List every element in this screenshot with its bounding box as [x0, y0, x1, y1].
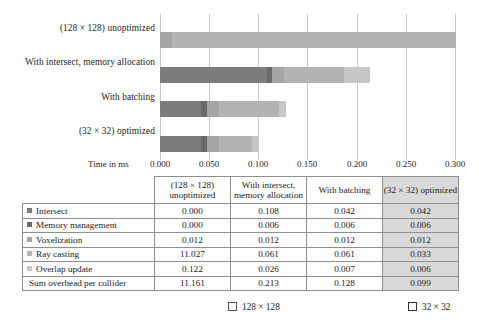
- bar-segment: [344, 67, 370, 83]
- table-cell: 11.027: [154, 247, 230, 262]
- row-header-5: Sum overhead per collider: [23, 276, 155, 291]
- row-header-1: Memory management: [23, 218, 155, 233]
- bar-series-3: [160, 136, 258, 152]
- series-color-swatch-icon: [27, 237, 32, 242]
- table-row: Overlap update0.1220.0260.0070.006: [23, 262, 459, 277]
- row-label: Ray casting: [36, 249, 79, 259]
- category-label-1: With intersect, memory allocation: [5, 57, 155, 68]
- legend-item-1: 32 × 32: [408, 302, 451, 312]
- legend-swatch-icon-0: [228, 302, 237, 311]
- row-header-3: Ray casting: [23, 247, 155, 262]
- table-cell: 0.012: [154, 233, 230, 248]
- table-cell: 0.033: [382, 247, 458, 262]
- bar-segment: [160, 67, 267, 83]
- x-tick-label-5: 0.250: [386, 159, 426, 169]
- legend-swatch-icon-1: [408, 302, 417, 311]
- column-header-3: (32 × 32) optimized: [382, 177, 458, 204]
- row-header-2: Voxelization: [23, 233, 155, 248]
- bar-segment: [219, 101, 279, 117]
- stacked-bar-chart: (128 × 128) unoptimized With intersect, …: [0, 0, 479, 170]
- row-label: Intersect: [36, 206, 68, 216]
- x-tick-label-2: 0.100: [238, 159, 278, 169]
- row-label: Voxelization: [36, 235, 82, 245]
- table-row: Sum overhead per collider11.1610.2130.12…: [23, 276, 459, 291]
- bar-segment: [172, 32, 456, 48]
- x-tick-label-0: 0.000: [140, 159, 180, 169]
- chart-legend: 128 × 128 32 × 32: [0, 302, 479, 320]
- table-cell: 0.042: [307, 204, 383, 219]
- column-header-0: (128 × 128) unoptimized: [154, 177, 230, 204]
- table-cell: 0.012: [382, 233, 458, 248]
- category-axis-labels: (128 × 128) unoptimized With intersect, …: [0, 0, 155, 141]
- bar-segment: [219, 136, 252, 152]
- row-label: Overlap update: [36, 264, 92, 274]
- bar-segment: [284, 67, 344, 83]
- table-cell: 0.128: [307, 276, 383, 291]
- x-tick-label-3: 0.150: [287, 159, 327, 169]
- table-cell: 11.161: [154, 276, 230, 291]
- legend-label-0: 128 × 128: [242, 302, 280, 312]
- table-row: Intersect0.0000.1080.0420.042: [23, 204, 459, 219]
- row-header-4: Overlap update: [23, 262, 155, 277]
- table-body: Intersect0.0000.1080.0420.042Memory mana…: [23, 204, 459, 291]
- table-row: Ray casting11.0270.0610.0610.033: [23, 247, 459, 262]
- bar-segment: [207, 136, 219, 152]
- data-table: (128 × 128) unoptimized With intersect, …: [22, 176, 459, 291]
- bar-series-2: [160, 101, 286, 117]
- series-color-swatch-icon: [27, 266, 32, 271]
- table-cell: 0.006: [231, 218, 307, 233]
- legend-item-0: 128 × 128: [228, 302, 280, 312]
- table-head: (128 × 128) unoptimized With intersect, …: [23, 177, 459, 204]
- table-cell: 0.007: [307, 262, 383, 277]
- bar-segment: [160, 32, 172, 48]
- table-cell: 0.006: [382, 262, 458, 277]
- table-cell: 0.213: [231, 276, 307, 291]
- table-header-row: (128 × 128) unoptimized With intersect, …: [23, 177, 459, 204]
- bar-segment: [160, 101, 201, 117]
- series-color-swatch-icon: [27, 222, 32, 227]
- table-cell: 0.061: [231, 247, 307, 262]
- row-header-0: Intersect: [23, 204, 155, 219]
- bar-segment: [207, 101, 219, 117]
- x-tick-label-6: 0.300: [435, 159, 475, 169]
- table-cell: 0.026: [231, 262, 307, 277]
- row-label: Sum overhead per collider: [29, 278, 126, 288]
- x-tick-label-1: 0.050: [189, 159, 229, 169]
- column-header-2: With batching: [307, 177, 383, 204]
- table-cell: 0.042: [382, 204, 458, 219]
- bar-segment: [279, 101, 286, 117]
- table-corner-cell: [23, 177, 155, 204]
- table-row: Memory management0.0000.0060.0060.006: [23, 218, 459, 233]
- row-label: Memory management: [36, 220, 117, 230]
- category-label-2: With batching: [5, 92, 155, 103]
- table-cell: 0.006: [307, 218, 383, 233]
- table-cell: 0.012: [231, 233, 307, 248]
- bar-segment: [160, 136, 201, 152]
- bar-series-1: [160, 67, 370, 83]
- table-cell: 0.000: [154, 204, 230, 219]
- table-row: Voxelization0.0120.0120.0120.012: [23, 233, 459, 248]
- table-cell: 0.099: [382, 276, 458, 291]
- plot-area: [160, 14, 456, 155]
- column-header-1: With intersect, memory allocation: [231, 177, 307, 204]
- series-color-swatch-icon: [27, 208, 32, 213]
- x-axis-title: Time in ms: [88, 159, 129, 169]
- table-cell: 0.000: [154, 218, 230, 233]
- bar-segment: [252, 136, 258, 152]
- table-cell: 0.061: [307, 247, 383, 262]
- data-table-wrapper: (128 × 128) unoptimized With intersect, …: [22, 176, 459, 291]
- category-label-3: (32 × 32) optimized: [5, 126, 155, 137]
- legend-label-1: 32 × 32: [422, 302, 451, 312]
- table-cell: 0.012: [307, 233, 383, 248]
- x-tick-label-4: 0.200: [337, 159, 377, 169]
- table-cell: 0.122: [154, 262, 230, 277]
- table-cell: 0.108: [231, 204, 307, 219]
- bar-series-0: [160, 32, 456, 48]
- series-color-swatch-icon: [27, 251, 32, 256]
- category-label-0: (128 × 128) unoptimized: [5, 23, 155, 34]
- bar-segment: [272, 67, 284, 83]
- table-cell: 0.006: [382, 218, 458, 233]
